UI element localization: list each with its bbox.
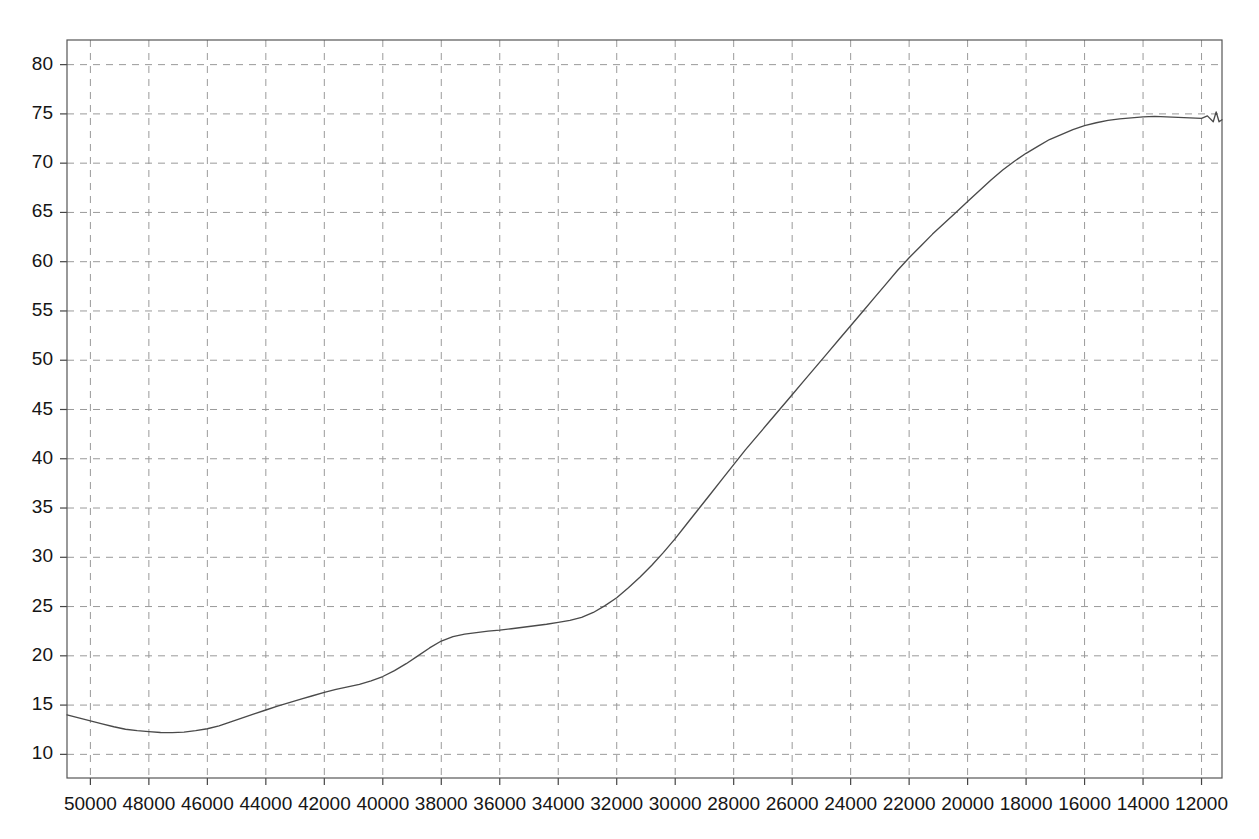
x-tick-label: 50000 (64, 793, 117, 814)
y-tick-label: 15 (32, 693, 53, 714)
y-tick-label: 40 (32, 447, 53, 468)
y-tick-label: 55 (32, 299, 53, 320)
y-axis-tick-labels: 101520253035404550556065707580 (32, 53, 53, 764)
y-tick-label: 80 (32, 53, 53, 74)
y-tick-label: 60 (32, 250, 53, 271)
x-tick-label: 26000 (766, 793, 819, 814)
x-tick-label: 48000 (122, 793, 175, 814)
x-tick-label: 44000 (239, 793, 292, 814)
x-tick-label: 12000 (1175, 793, 1228, 814)
y-tick-label: 45 (32, 398, 53, 419)
x-axis-tick-labels: 5000048000460004400042000400003800036000… (64, 793, 1228, 814)
y-tick-label: 65 (32, 200, 53, 221)
x-tick-label: 16000 (1058, 793, 1111, 814)
line-chart: 101520253035404550556065707580 500004800… (0, 0, 1259, 839)
x-tick-label: 22000 (883, 793, 936, 814)
x-tick-label: 18000 (1000, 793, 1053, 814)
y-tick-label: 10 (32, 742, 53, 763)
y-tick-label: 70 (32, 151, 53, 172)
x-tick-label: 24000 (824, 793, 877, 814)
y-tick-label: 30 (32, 545, 53, 566)
y-tick-label: 20 (32, 644, 53, 665)
y-tick-label: 25 (32, 595, 53, 616)
chart-container: 101520253035404550556065707580 500004800… (0, 0, 1259, 839)
data-series-layer (67, 112, 1222, 733)
x-tick-label: 34000 (532, 793, 585, 814)
data-line-transmittance (67, 112, 1222, 733)
x-tick-label: 36000 (473, 793, 526, 814)
x-tick-label: 38000 (415, 793, 468, 814)
x-tick-label: 30000 (649, 793, 702, 814)
x-tick-label: 14000 (1117, 793, 1170, 814)
x-tick-label: 46000 (181, 793, 234, 814)
y-tick-label: 50 (32, 348, 53, 369)
grid-layer (67, 40, 1222, 778)
x-tick-label: 32000 (590, 793, 643, 814)
y-tick-label: 75 (32, 102, 53, 123)
x-tick-label: 40000 (356, 793, 409, 814)
x-tick-label: 28000 (707, 793, 760, 814)
y-tick-label: 35 (32, 496, 53, 517)
x-tick-label: 42000 (298, 793, 351, 814)
x-tick-label: 20000 (941, 793, 994, 814)
tick-layer (60, 65, 1202, 785)
